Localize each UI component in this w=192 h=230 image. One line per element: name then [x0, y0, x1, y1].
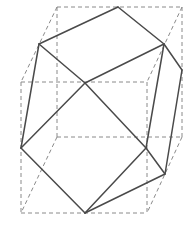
- poly-edge: [164, 44, 182, 70]
- box-edge: [21, 137, 57, 213]
- poly-edge: [39, 7, 118, 44]
- poly-edge: [85, 44, 164, 83]
- poly-edge: [165, 70, 182, 174]
- polyhedron-solid-edges: [21, 7, 182, 213]
- poly-edge: [85, 148, 146, 213]
- poly-edge: [21, 148, 85, 213]
- poly-edge: [146, 44, 164, 148]
- poly-edge: [118, 7, 164, 44]
- poly-edge: [85, 174, 165, 213]
- polyhedron-diagram: [0, 0, 192, 230]
- poly-edge: [146, 148, 165, 174]
- poly-edge: [39, 44, 85, 83]
- bounding-box-dashed: [21, 7, 182, 213]
- poly-edge: [85, 83, 146, 148]
